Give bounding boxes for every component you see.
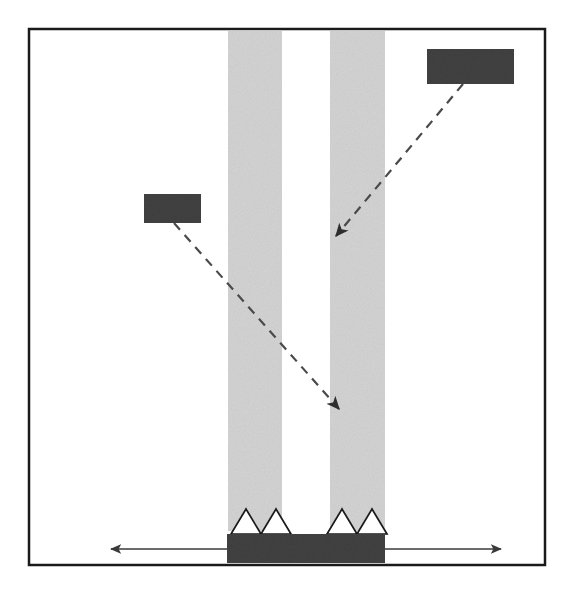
canvas-background	[0, 0, 573, 589]
stripe-right	[330, 31, 385, 531]
substrate-base	[227, 534, 385, 563]
stripe-left	[228, 31, 282, 531]
figure-root	[0, 0, 573, 589]
redacted-label-top-right	[427, 49, 514, 84]
redacted-label-middle-left	[144, 194, 201, 223]
diagram-canvas	[0, 0, 573, 589]
